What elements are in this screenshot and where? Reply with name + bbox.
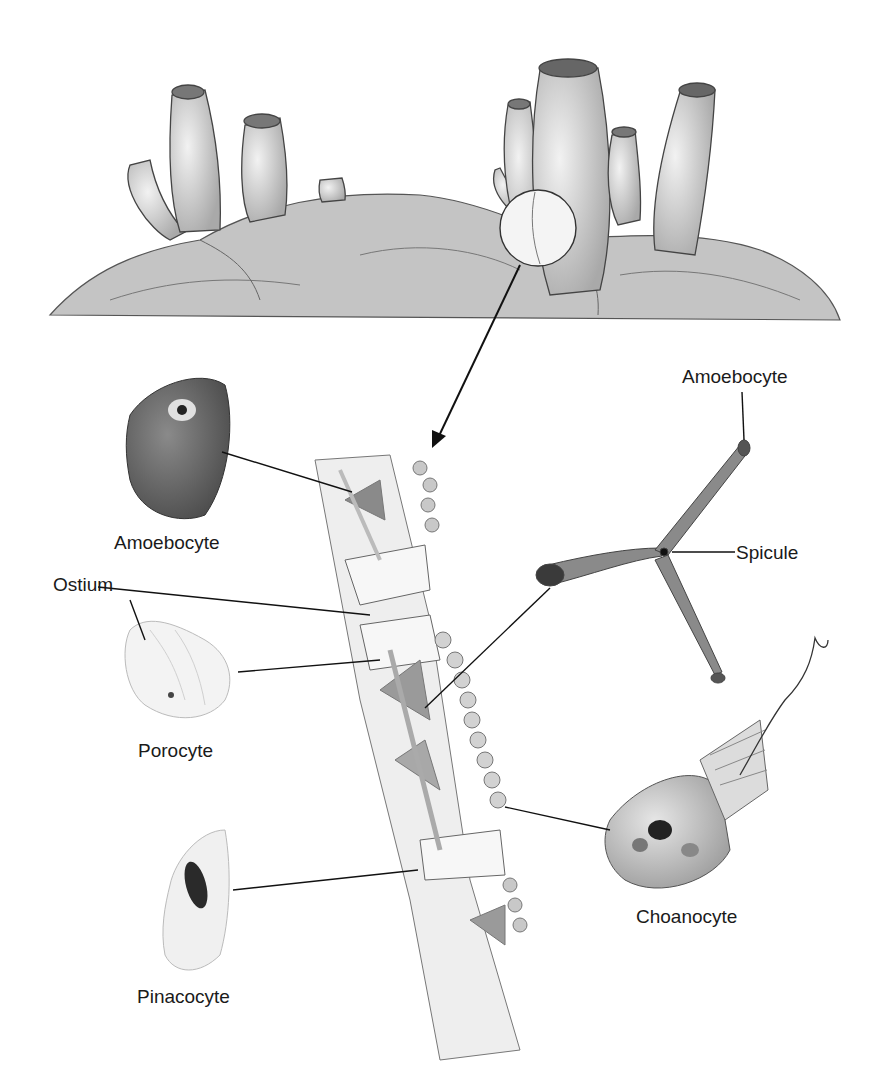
magnifier-circle <box>500 190 576 266</box>
label-ostium: Ostium <box>53 574 113 596</box>
label-amoebocyte-left: Amoebocyte <box>114 532 220 554</box>
pinacocyte-cell <box>163 830 229 970</box>
amoebocyte-cell-left <box>126 378 230 518</box>
spicule <box>536 440 750 683</box>
label-pinacocyte: Pinacocyte <box>137 986 230 1008</box>
label-porocyte: Porocyte <box>138 740 213 762</box>
label-spicule: Spicule <box>736 542 798 564</box>
sponge-cell-diagram: Amoebocyte Amoebocyte Spicule Ostium Por… <box>0 0 883 1070</box>
porocyte-cell <box>125 621 230 717</box>
body-wall-section <box>315 455 527 1060</box>
label-choanocyte: Choanocyte <box>636 906 737 928</box>
label-amoebocyte-right: Amoebocyte <box>682 366 788 388</box>
